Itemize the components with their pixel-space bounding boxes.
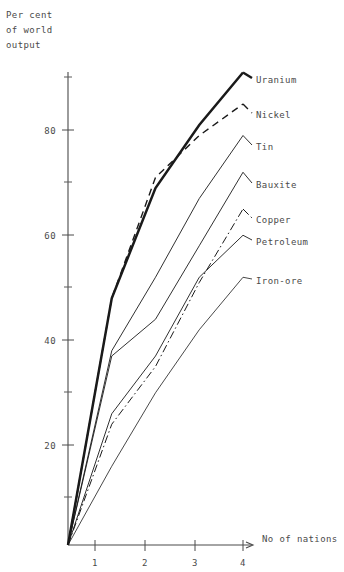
y-axis-title-line-2: of world: [6, 25, 53, 35]
y-axis-title: Per cent of world output: [6, 10, 53, 50]
y-axis-title-line-3: output: [6, 40, 41, 50]
x-tick-label-3: 3: [192, 558, 198, 568]
leader-line-tin: [243, 136, 252, 146]
series-label-iron-ore: Iron-ore: [256, 276, 303, 286]
x-tick-label-2: 2: [142, 558, 148, 568]
leader-line-copper: [243, 209, 252, 218]
series-label-nickel: Nickel: [256, 110, 291, 120]
leader-line-nickel: [243, 104, 252, 113]
chart-container: 80 60 40 20 Per cent of world output 1 2…: [0, 0, 344, 572]
series-line-nickel: [68, 104, 243, 545]
y-tick-label-80: 80: [44, 126, 56, 136]
series-line-copper: [68, 209, 243, 545]
series-line-tin: [68, 136, 243, 546]
series-label-petroleum: Petroleum: [256, 237, 308, 247]
series-label-uranium: Uranium: [256, 75, 297, 85]
leader-line-iron-ore: [243, 277, 252, 279]
series-layer: [68, 73, 243, 546]
series-line-iron-ore: [68, 277, 243, 545]
y-tick-label-40: 40: [44, 336, 56, 346]
series-labels: Uranium Nickel Tin Bauxite Copper Petrol…: [256, 75, 308, 286]
x-tick-label-4: 4: [240, 558, 246, 568]
leader-line-petroleum: [243, 235, 252, 240]
y-tick-label-60: 60: [44, 231, 56, 241]
series-line-bauxite: [68, 172, 243, 545]
y-axis-title-line-1: Per cent: [6, 10, 53, 20]
y-tick-labels: 80 60 40 20: [44, 126, 56, 451]
x-tick-labels: 1 2 3 4: [92, 558, 246, 568]
series-label-bauxite: Bauxite: [256, 180, 297, 190]
x-axis-title: No of nations: [262, 534, 338, 544]
leader-line-bauxite: [243, 172, 252, 183]
leader-line-uranium: [243, 73, 252, 79]
line-chart: 80 60 40 20 Per cent of world output 1 2…: [0, 0, 344, 572]
y-tick-label-20: 20: [44, 441, 56, 451]
series-label-tin: Tin: [256, 142, 273, 152]
leader-line-layer: [243, 73, 252, 280]
series-label-copper: Copper: [256, 215, 291, 225]
x-tick-label-1: 1: [92, 558, 98, 568]
